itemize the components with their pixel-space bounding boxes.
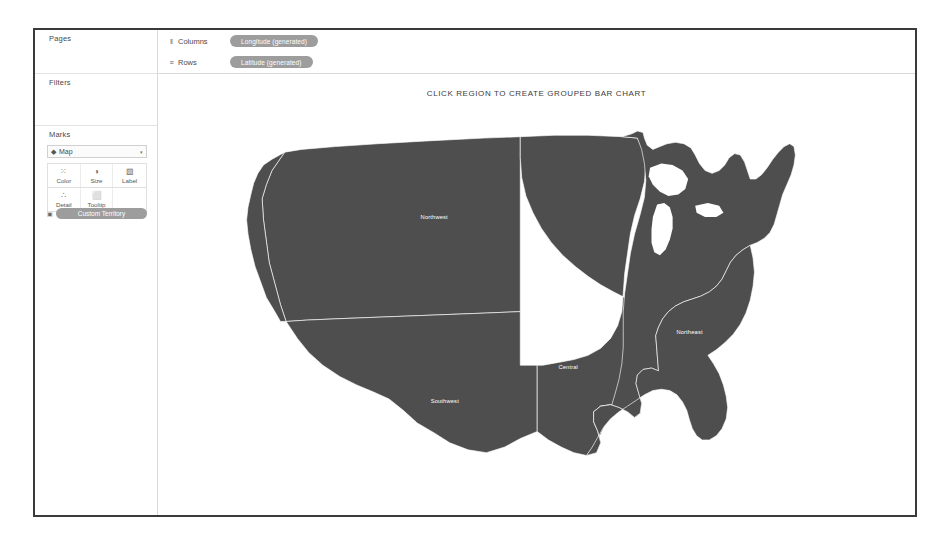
territory-map[interactable]: Northwest Southwest Central Northeast So… (158, 100, 915, 495)
rows-shelf[interactable]: ≡ Rows Latitude (generated) (158, 51, 915, 73)
map-svg: Northwest Southwest Central Northeast So… (158, 100, 915, 495)
marks-label-button[interactable]: ▧ Label (113, 164, 146, 187)
marks-card-label: Marks (35, 126, 158, 140)
detail-dots-icon: ∴ (48, 191, 80, 200)
marks-card: Marks ◆ Map ▾ ⁙ Color ◑ Size (35, 126, 158, 256)
marks-size-label: Size (81, 177, 113, 185)
custom-territory-pill[interactable]: Custom Territory (56, 208, 147, 219)
shape-icon: ▣ (47, 210, 53, 217)
marks-size-button[interactable]: ◑ Size (81, 164, 114, 187)
shelf-header: ‖ Columns Longitude (generated) ≡ Rows L… (158, 30, 915, 74)
columns-field-pill[interactable]: Longitude (generated) (230, 35, 318, 47)
rows-field-pill[interactable]: Latitude (generated) (230, 56, 313, 68)
worksheet-title: CLICK REGION TO CREATE GROUPED BAR CHART (158, 74, 915, 98)
label-tag-icon: ▧ (113, 167, 146, 176)
territory-northwest[interactable] (262, 137, 520, 322)
marks-label-label: Label (113, 177, 146, 185)
rows-shelf-label: Rows (178, 58, 230, 67)
rows-icon: ≡ (167, 59, 176, 66)
marks-button-row: ⁙ Color ◑ Size ▧ Label (47, 163, 147, 187)
mark-type-value: Map (59, 148, 140, 155)
columns-icon: ‖ (167, 38, 176, 45)
chevron-down-icon: ▾ (140, 149, 143, 155)
pages-shelf[interactable]: Pages (35, 30, 158, 74)
territory-label-southeast: Southeast (654, 430, 681, 436)
marks-color-label: Color (48, 177, 80, 185)
filters-shelf-label: Filters (35, 74, 158, 88)
pages-shelf-label: Pages (35, 30, 158, 44)
columns-shelf[interactable]: ‖ Columns Longitude (generated) (158, 30, 915, 52)
palette-icon: ⁙ (48, 167, 80, 176)
left-shelf-panel: Pages Filters Marks ◆ Map ▾ ⁙ Color ◑ (35, 30, 158, 515)
custom-territory-row: ▣ Custom Territory (47, 208, 147, 219)
map-mark-icon: ◆ (51, 148, 56, 156)
tooltip-bubble-icon: ⬜ (81, 191, 113, 200)
territory-southwest[interactable] (286, 312, 537, 453)
filters-shelf[interactable]: Filters (35, 74, 158, 126)
marks-button-grid: ⁙ Color ◑ Size ▧ Label ∴ Detail (47, 163, 147, 212)
columns-shelf-label: Columns (178, 37, 230, 46)
marks-color-button[interactable]: ⁙ Color (48, 164, 81, 187)
mark-type-dropdown[interactable]: ◆ Map ▾ (47, 145, 147, 158)
visualization-pane: CLICK REGION TO CREATE GROUPED BAR CHART (158, 74, 915, 515)
size-circle-icon: ◑ (81, 167, 113, 176)
application-window: Pages Filters Marks ◆ Map ▾ ⁙ Color ◑ (33, 28, 917, 517)
